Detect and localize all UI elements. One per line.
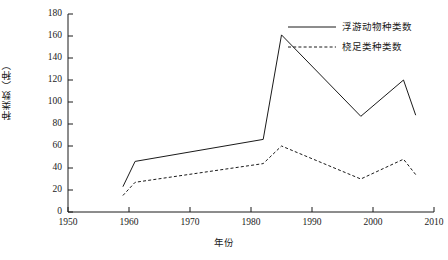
x-tick-label: 2000 bbox=[348, 218, 398, 228]
y-tick-label: 20 bbox=[20, 185, 62, 195]
y-tick-label: 40 bbox=[20, 163, 62, 173]
y-tick-label: 160 bbox=[20, 31, 62, 41]
y-tick-label: 140 bbox=[20, 53, 62, 63]
y-tick-label: 120 bbox=[20, 75, 62, 85]
x-tick-label: 1950 bbox=[43, 218, 93, 228]
x-axis-title: 年份 bbox=[0, 238, 448, 248]
legend-sample-lines bbox=[288, 27, 336, 47]
x-tick-label: 1990 bbox=[287, 218, 337, 228]
y-tick-label: 0 bbox=[20, 207, 62, 217]
x-tick-label: 1970 bbox=[165, 218, 215, 228]
data-series-group bbox=[123, 35, 416, 196]
legend-label-0: 浮游动物种类数 bbox=[342, 22, 412, 32]
legend-label-1: 桡足类种类数 bbox=[342, 42, 402, 52]
y-tick-label: 60 bbox=[20, 141, 62, 151]
y-axis-ticks bbox=[68, 14, 73, 212]
x-tick-label: 1980 bbox=[226, 218, 276, 228]
y-tick-label: 180 bbox=[20, 9, 62, 19]
y-tick-label: 80 bbox=[20, 119, 62, 129]
y-tick-label: 100 bbox=[20, 97, 62, 107]
data-series-line-0 bbox=[123, 35, 416, 187]
chart-container: 020406080100120140160180 195019601970198… bbox=[0, 0, 448, 260]
x-tick-label: 1960 bbox=[104, 218, 154, 228]
y-axis-title: 种类数（种） bbox=[2, 60, 16, 120]
data-series-line-1 bbox=[123, 146, 416, 196]
x-axis-ticks bbox=[68, 207, 434, 212]
x-tick-label: 2010 bbox=[409, 218, 448, 228]
